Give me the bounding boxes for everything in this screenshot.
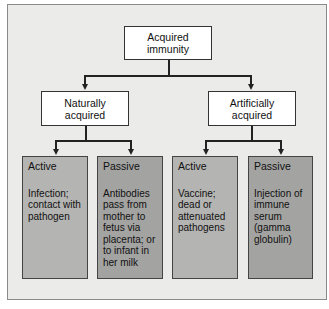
- leaf-type: Passive: [254, 161, 307, 173]
- leaf-description: Injection of immune serum (gamma globuli…: [254, 188, 302, 245]
- leaf-description: Antibodies pass from mother to fetus via…: [103, 188, 155, 268]
- leaf-type: Passive: [103, 161, 157, 173]
- leaf-artificial-passive: Passive Injection of immune serum (gamma…: [248, 156, 313, 279]
- node-label: Artificially: [230, 97, 274, 109]
- node-label: acquired: [65, 109, 105, 121]
- arrow-down-icon: [82, 84, 88, 90]
- connector-line: [55, 140, 131, 142]
- leaf-natural-active: Active Infection; contact with pathogen: [22, 156, 88, 279]
- arrow-down-icon: [53, 149, 59, 155]
- connector-line: [205, 140, 281, 142]
- node-acquired-immunity: Acquiredimmunity: [124, 26, 212, 60]
- connector-line: [84, 75, 86, 84]
- arrow-down-icon: [278, 149, 284, 155]
- arrow-down-icon: [203, 149, 209, 155]
- leaf-type: Active: [178, 161, 232, 173]
- node-label: immunity: [147, 43, 189, 55]
- connector-line: [205, 140, 207, 149]
- connector-line: [280, 140, 282, 149]
- node-label: Acquired: [147, 31, 188, 43]
- connector-line: [55, 140, 57, 149]
- connector-line: [251, 126, 253, 141]
- leaf-artificial-active: Active Vaccine; dead or attenuated patho…: [172, 156, 238, 279]
- connector-line: [168, 60, 170, 75]
- node-naturally-acquired: Naturallyacquired: [41, 91, 129, 126]
- arrow-down-icon: [128, 149, 134, 155]
- leaf-natural-passive: Passive Antibodies pass from mother to f…: [97, 156, 163, 279]
- connector-line: [130, 140, 132, 149]
- leaf-type: Active: [28, 161, 82, 173]
- leaf-description: Vaccine; dead or attenuated pathogens: [178, 188, 225, 234]
- leaf-description: Infection; contact with pathogen: [28, 188, 81, 222]
- node-label: acquired: [232, 109, 272, 121]
- connector-line: [84, 75, 251, 77]
- connector-line: [250, 75, 252, 84]
- arrow-down-icon: [248, 84, 254, 90]
- node-label: Naturally: [64, 97, 105, 109]
- connector-line: [85, 126, 87, 141]
- node-artificially-acquired: Artificiallyacquired: [208, 91, 296, 126]
